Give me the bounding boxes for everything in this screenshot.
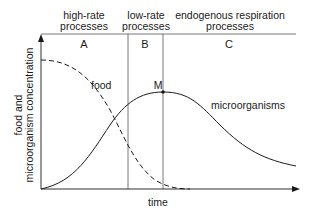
phase-b-title-line2: processes bbox=[122, 20, 170, 32]
x-axis-label: time bbox=[148, 196, 168, 208]
phase-a-title-line2: processes bbox=[60, 20, 108, 32]
phase-b-letter: B bbox=[141, 38, 148, 50]
peak-label: M bbox=[154, 79, 163, 91]
phase-c-letter: C bbox=[225, 38, 233, 50]
growth-phase-diagram: high-rate processes low-rate processes e… bbox=[0, 0, 315, 220]
phase-c-title-line2: processes bbox=[206, 20, 254, 32]
y-axis-label-line2: microorganism concentration bbox=[23, 47, 35, 182]
y-axis-arrow-icon bbox=[38, 34, 44, 42]
x-axis-arrow-icon bbox=[292, 186, 300, 192]
phase-a-letter: A bbox=[80, 38, 88, 50]
food-curve bbox=[41, 60, 190, 189]
food-curve-label: food bbox=[91, 79, 112, 91]
microorganisms-curve-label: microorganisms bbox=[211, 99, 285, 111]
